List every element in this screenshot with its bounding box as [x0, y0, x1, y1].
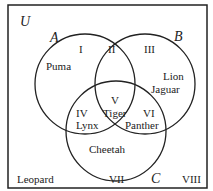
region-iii-numeral: III — [144, 43, 155, 55]
region-vii-cheetah: Cheetah — [89, 143, 126, 155]
region-i-puma: Puma — [46, 60, 71, 72]
region-ii-numeral: II — [108, 43, 116, 55]
set-label-b: B — [174, 29, 183, 44]
region-i-numeral: I — [79, 43, 83, 55]
set-label-c: C — [151, 171, 161, 186]
region-viii-numeral: VIII — [182, 173, 201, 185]
region-v-tiger: Tiger — [103, 107, 127, 119]
venn-diagram: U A B C I Puma II III Lion Jaguar IV Lyn… — [0, 0, 213, 191]
region-vii-numeral: VII — [109, 173, 125, 185]
region-v-numeral: V — [111, 94, 119, 106]
universe-label: U — [20, 14, 31, 29]
region-viii-leopard: Leopard — [17, 173, 54, 185]
region-iii-lion: Lion — [163, 70, 184, 82]
region-iv-numeral: IV — [76, 107, 88, 119]
region-vi-panther: Panther — [125, 119, 159, 131]
region-iii-jaguar: Jaguar — [151, 83, 180, 95]
region-iv-lynx: Lynx — [76, 119, 99, 131]
set-label-a: A — [49, 30, 59, 45]
region-vi-numeral: VI — [143, 107, 155, 119]
